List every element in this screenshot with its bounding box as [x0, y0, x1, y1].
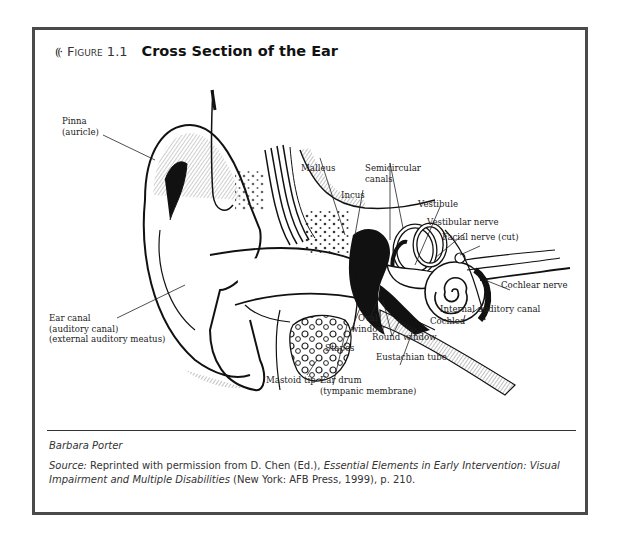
label-eustachian-tube: Eustachian tube: [376, 352, 447, 363]
label-cochlea: Cochlea: [430, 316, 465, 327]
source-citation: Source: Reprinted with permission from D…: [49, 459, 569, 487]
label-round-window: Round window: [372, 332, 437, 343]
semicircular-canals: [392, 225, 445, 274]
label-cochlear-nerve: Cochlear nerve: [501, 280, 568, 291]
label-facial-nerve: Facial nerve (cut): [442, 232, 519, 243]
illustrator-credit: Barbara Porter: [49, 440, 122, 451]
label-ear-drum: Ear drum (tympanic membrane): [320, 375, 416, 396]
label-ear-canal: Ear canal (auditory canal) (external aud…: [49, 313, 165, 345]
label-oval-window: Oval window: [351, 313, 385, 334]
figure-frame: ((· Figure 1.1 Cross Section of the Ear: [32, 27, 588, 515]
label-internal-auditory-canal: Internal auditory canal: [440, 304, 540, 315]
source-label: Source:: [49, 460, 87, 471]
label-mastoid-tip: Mastoid tip: [266, 375, 316, 386]
caption-divider: [47, 430, 576, 431]
label-vestibular-nerve: Vestibular nerve: [427, 217, 499, 228]
label-stapes: Stapes: [325, 343, 354, 354]
label-incus: Incus: [341, 190, 365, 201]
label-semicircular-canals: Semicircular canals: [365, 163, 421, 184]
label-malleus: Malleus: [301, 163, 335, 174]
source-text-1: Reprinted with permission from D. Chen (…: [87, 460, 324, 471]
source-text-2: (New York: AFB Press, 1999), p. 210.: [230, 474, 415, 485]
label-vestibule: Vestibule: [418, 199, 458, 210]
label-pinna: Pinna (auricle): [62, 116, 99, 137]
